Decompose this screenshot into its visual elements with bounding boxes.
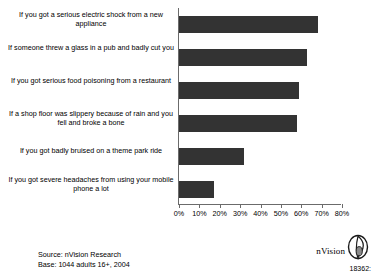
x-axis-tick [240,204,241,208]
nvision-wordmark: nVision [316,246,345,256]
category-label: If someone threw a glass in a pub and ba… [5,43,177,52]
chart-row: If you got serious food poisoning from a… [0,74,385,107]
brand-logo-block: nVision 18362: [283,234,375,274]
x-axis-tick [261,204,262,208]
x-axis-tick [199,204,200,208]
chart-row: If someone threw a glass in a pub and ba… [0,41,385,74]
chart-row: If a shop floor was slippery because of … [0,107,385,140]
bar[interactable] [179,16,318,33]
base-line: Base: 1044 adults 16+, 2004 [38,260,130,270]
bar[interactable] [179,49,307,66]
nvision-leaf-logo-icon [345,234,371,260]
bar[interactable] [179,148,244,165]
x-axis-tick [322,204,323,208]
category-label: If you got badly bruised on a theme park… [5,146,177,155]
category-label: If you got serious food poisoning from a… [5,76,177,85]
x-axis-tick-label: 80% [327,209,357,218]
footer-notes: Source: nVision Research Base: 1044 adul… [38,250,130,269]
chart-row: If you got badly bruised on a theme park… [0,140,385,173]
chart-row: If you got a serious electric shock from… [0,8,385,41]
bar[interactable] [179,181,214,198]
category-label: If you got a serious electric shock from… [5,10,177,28]
x-axis-tick [179,204,180,208]
x-axis-tick [220,204,221,208]
chart-row: If you got severe headaches from using y… [0,173,385,206]
document-code: 18362: [350,265,371,272]
category-label: If you got severe headaches from using y… [5,175,177,193]
chart-page: If you got a serious electric shock from… [0,0,385,276]
bar[interactable] [179,82,299,99]
x-axis-tick [301,204,302,208]
source-line: Source: nVision Research [38,250,130,260]
bar-chart: If you got a serious electric shock from… [0,0,385,215]
category-label: If a shop floor was slippery because of … [5,109,177,127]
x-axis-tick [342,204,343,208]
bar[interactable] [179,115,297,132]
x-axis-tick [281,204,282,208]
